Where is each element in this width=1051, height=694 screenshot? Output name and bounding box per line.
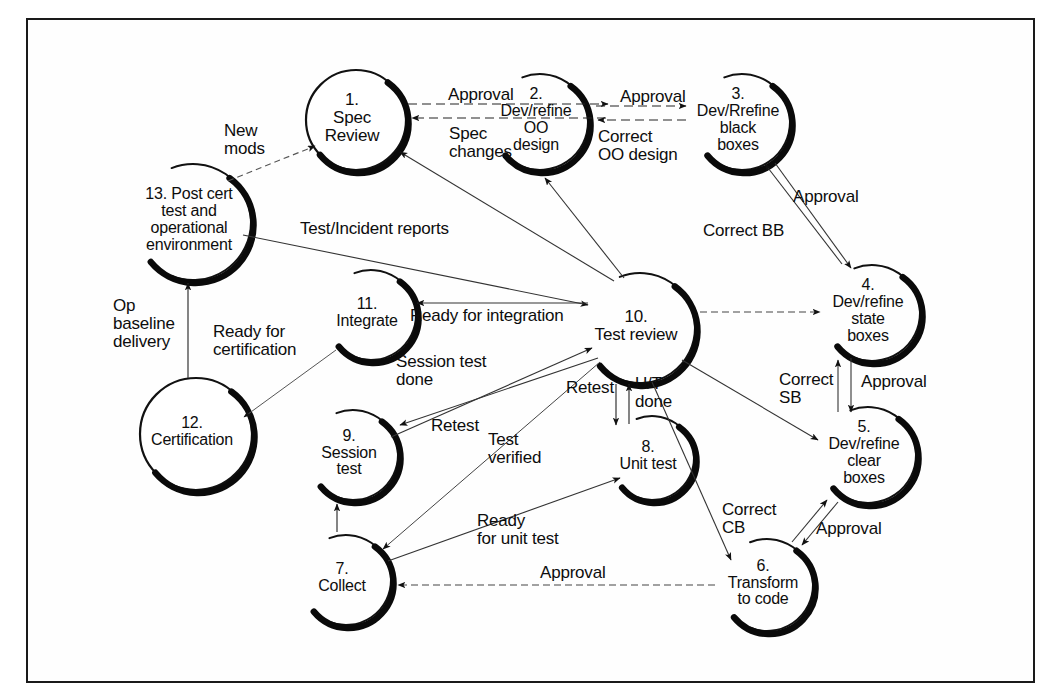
edge-approval-3-4 bbox=[775, 163, 851, 268]
edge-ready-cert-11-12 bbox=[244, 350, 336, 417]
node-n9-shape[interactable] bbox=[321, 410, 401, 503]
edge-lines-layer bbox=[188, 104, 851, 585]
edge-correct-bb-4-3 bbox=[765, 164, 842, 264]
diagram-canvas bbox=[0, 0, 1051, 694]
node-n5-shape[interactable] bbox=[834, 407, 919, 506]
node-n10-shape[interactable] bbox=[600, 273, 697, 386]
node-shapes-layer bbox=[140, 70, 923, 634]
edge-new-mods-13-1 bbox=[228, 146, 315, 181]
edge-session-test-done-9-10 bbox=[391, 348, 592, 437]
edge-10-to-6 bbox=[652, 382, 731, 560]
node-n2-shape[interactable] bbox=[506, 74, 591, 173]
node-n6-shape[interactable] bbox=[734, 539, 815, 634]
node-n12-shape[interactable] bbox=[140, 378, 254, 493]
node-n8-shape[interactable] bbox=[622, 416, 696, 503]
node-n11-shape[interactable] bbox=[339, 270, 419, 363]
node-n13-shape[interactable] bbox=[151, 164, 254, 283]
node-n3-shape[interactable] bbox=[708, 74, 793, 173]
edge-test-verified-10-7 bbox=[383, 362, 600, 549]
diagram-page: 1. Spec Review2. Dev/refine OO design3. … bbox=[0, 0, 1051, 694]
node-n4-shape[interactable] bbox=[838, 265, 923, 364]
edge-10-to-5 bbox=[682, 360, 818, 440]
edge-ready-unit-test-7-8 bbox=[388, 478, 620, 561]
node-n1-shape[interactable] bbox=[306, 70, 408, 173]
edge-10-to-1 bbox=[400, 152, 614, 281]
node-n7-shape[interactable] bbox=[314, 535, 394, 628]
edge-retest-10-9 bbox=[400, 358, 598, 425]
